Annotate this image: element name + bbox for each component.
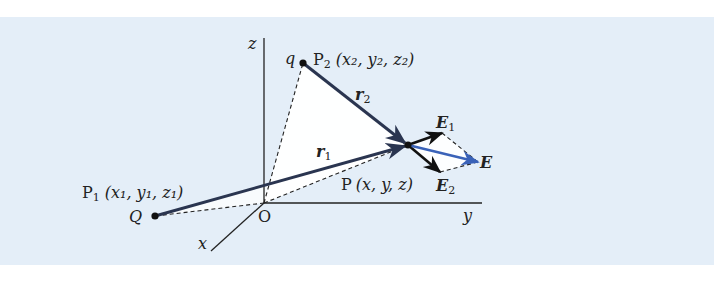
vector-e-label: E <box>479 153 493 172</box>
vector-e2-label: E2 <box>435 176 455 197</box>
point-p1-label: P1(x₁, y₁, z₁) <box>82 183 183 204</box>
y-axis-label: y <box>462 206 473 225</box>
point-p <box>404 141 411 148</box>
x-axis-label: x <box>198 234 207 253</box>
x-axis <box>211 203 264 251</box>
origin-label: O <box>258 207 271 226</box>
vector-r2-label: r2 <box>355 85 370 106</box>
charge-Q-label: Q <box>129 207 142 226</box>
point-p2 <box>299 59 306 66</box>
electric-field-superposition-diagram: z y x O q P2(x₂, y₂, z₂) P1(x₁, y₁, z₁) … <box>0 0 722 284</box>
z-axis-label: z <box>247 34 257 53</box>
point-p2-label: P2(x₂, y₂, z₂) <box>313 50 414 71</box>
charge-q-label: q <box>285 49 295 68</box>
vector-e1-label: E1 <box>435 113 455 134</box>
point-p1 <box>151 212 158 219</box>
point-p-label: P(x, y, z) <box>341 175 413 194</box>
